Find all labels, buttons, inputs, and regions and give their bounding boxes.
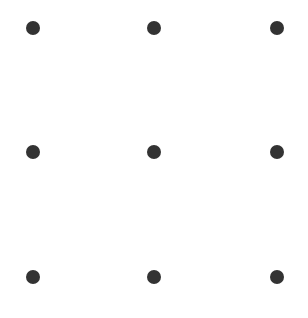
scatter-point-top-left [26,21,40,35]
scatter-plot-canvas [0,0,308,318]
scatter-point-top-right [270,21,284,35]
scatter-point-middle-right [270,145,284,159]
scatter-point-bottom-left [26,270,40,284]
scatter-point-middle-left [26,145,40,159]
scatter-point-middle-center [147,145,161,159]
scatter-point-bottom-center [147,270,161,284]
scatter-point-top-center [147,21,161,35]
scatter-point-bottom-right [270,270,284,284]
